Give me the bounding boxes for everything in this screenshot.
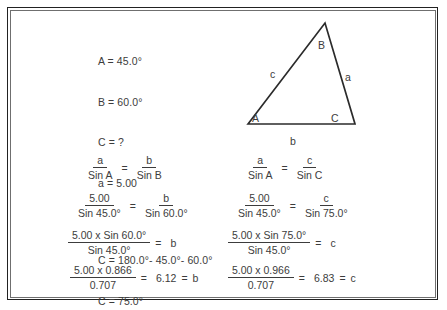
fraction-numerator: a: [93, 154, 107, 168]
fraction-denominator: Sin 45.0°: [74, 206, 125, 219]
fraction-denominator: Sin B: [133, 168, 166, 181]
triangle-side-c-label: c: [270, 69, 275, 80]
fraction: a Sin A: [244, 154, 277, 181]
triangle-diagram: A B C a b c: [228, 14, 388, 148]
fraction-numerator: 5.00: [85, 192, 113, 206]
result-value: 6.12: [152, 272, 176, 284]
equals-sign-2: =: [334, 272, 350, 284]
fraction: c Sin C: [293, 154, 327, 181]
triangle-vertex-b-label: B: [318, 40, 325, 51]
fraction-denominator: 0.707: [86, 278, 120, 291]
fraction: 5.00 Sin 45.0°: [234, 192, 285, 219]
fraction-denominator: Sin A: [84, 168, 117, 181]
triangle-vertex-a-label: A: [252, 113, 259, 124]
fraction-denominator: Sin 75.0°: [301, 206, 352, 219]
triangle-vertex-c-label: C: [331, 113, 339, 124]
fraction: b Sin 60.0°: [141, 192, 192, 219]
given-angle-c-unknown: C = ?: [98, 136, 213, 150]
fraction-numerator: 5.00 x Sin 75.0°: [228, 229, 310, 243]
fraction-denominator: 0.707: [244, 278, 278, 291]
equals-sign: =: [277, 162, 293, 174]
fraction-denominator: Sin A: [244, 168, 277, 181]
equals-sign: =: [136, 272, 152, 284]
given-angle-a: A = 45.0°: [98, 55, 213, 69]
angle-c-result: C = 75.0°: [98, 295, 213, 309]
result-variable: b: [166, 237, 176, 249]
fraction-numerator: b: [159, 192, 173, 206]
equals-sign: =: [285, 200, 301, 212]
fraction: 5.00 Sin 45.0°: [74, 192, 125, 219]
worksheet-page: A = 45.0° B = 60.0° C = ? a = 5.00 C = 1…: [0, 0, 447, 310]
equals-sign: =: [294, 272, 310, 284]
fraction-denominator: Sin C: [293, 168, 327, 181]
fraction: 5.00 x 0.866 0.707: [70, 264, 136, 291]
fraction: 5.00 x Sin 75.0° Sin 45.0°: [228, 229, 310, 256]
right-equation-row-1: a Sin A = c Sin C: [228, 154, 434, 181]
result-value: 6.83: [310, 272, 334, 284]
triangle-shape: [248, 23, 355, 124]
equals-sign: =: [310, 237, 326, 249]
fraction-numerator: a: [253, 154, 267, 168]
equals-sign: =: [117, 162, 133, 174]
fraction-denominator: Sin 60.0°: [141, 206, 192, 219]
given-angle-b: B = 60.0°: [98, 96, 213, 110]
right-equation-row-3: 5.00 x Sin 75.0° Sin 45.0° = c: [228, 229, 418, 256]
right-equation-row-4: 5.00 x 0.966 0.707 = 6.83 = c: [228, 264, 418, 291]
fraction-numerator: 5.00 x 0.866: [70, 264, 136, 278]
fraction-denominator: Sin 45.0°: [244, 243, 295, 256]
fraction-numerator: 5.00 x Sin 60.0°: [68, 229, 150, 243]
triangle-svg: [228, 14, 388, 148]
fraction-numerator: 5.00 x 0.966: [228, 264, 294, 278]
fraction: a Sin A: [84, 154, 117, 181]
equations-area: a Sin A = b Sin B 5.00 Sin 45.0° = b Sin…: [0, 152, 447, 292]
result-variable: c: [351, 272, 356, 284]
fraction-numerator: 5.00: [245, 192, 273, 206]
right-equation-row-2: 5.00 Sin 45.0° = c Sin 75.0°: [228, 192, 424, 219]
equals-sign: =: [150, 237, 166, 249]
triangle-side-b-label: b: [290, 136, 296, 147]
fraction: b Sin B: [133, 154, 166, 181]
result-variable: b: [193, 272, 199, 284]
equals-sign: =: [125, 200, 141, 212]
fraction: 5.00 x 0.966 0.707: [228, 264, 294, 291]
fraction-denominator: Sin 45.0°: [234, 206, 285, 219]
fraction-numerator: b: [142, 154, 156, 168]
result-variable: c: [326, 237, 335, 249]
triangle-side-a-label: a: [345, 72, 351, 83]
fraction: 5.00 x Sin 60.0° Sin 45.0°: [68, 229, 150, 256]
fraction: c Sin 75.0°: [301, 192, 352, 219]
fraction-numerator: c: [303, 154, 316, 168]
fraction-numerator: c: [320, 192, 333, 206]
equals-sign-2: =: [176, 272, 192, 284]
fraction-denominator: Sin 45.0°: [84, 243, 135, 256]
